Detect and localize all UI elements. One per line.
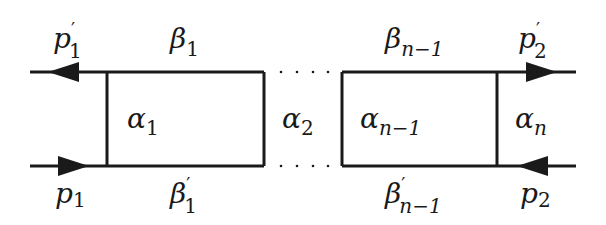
label-alpha-n: αn [515,102,547,140]
arrow-left-icon [48,62,79,82]
label-p2-prime: p′2 [518,19,547,63]
label-beta-1-prime: β′1 [169,174,197,218]
ellipsis-top [280,71,330,74]
ellipsis-bottom [280,165,330,168]
label-p2: p2 [520,177,551,212]
label-alpha-1: α1 [127,102,159,140]
label-p1-prime: p′1 [53,19,82,63]
arrow-left-icon [517,156,548,176]
label-alpha-2: α2 [282,102,314,140]
label-p1: p1 [55,177,86,212]
ladder-diagram: p′1 β1 α1 α2 p1 β′1 βn−1 p′2 αn−1 αn β′n… [0,0,606,225]
arrow-right-icon [58,156,89,176]
label-beta-n-minus-1: βn−1 [384,22,444,61]
label-alpha-n-minus-1: αn−1 [360,102,421,140]
label-beta-n-minus-1-prime: β′n−1 [384,174,442,218]
arrow-right-icon [526,62,557,82]
label-beta-1: β1 [169,22,199,61]
